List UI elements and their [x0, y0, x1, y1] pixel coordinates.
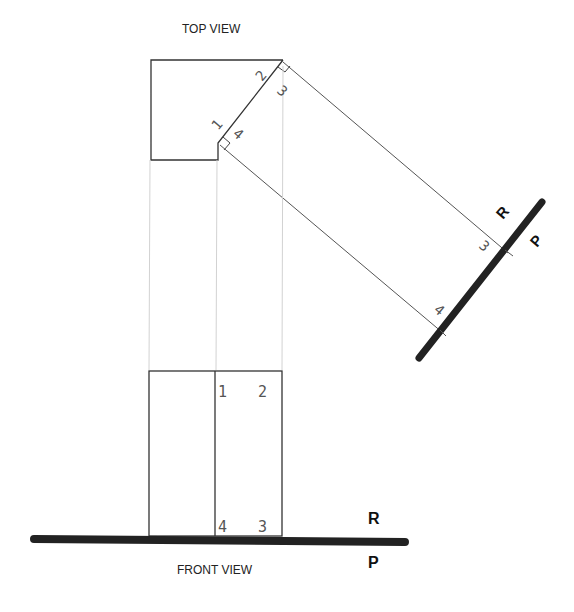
front-view-label: FRONT VIEW — [177, 563, 252, 577]
front-plane-r: R — [368, 510, 380, 528]
front-point-4: 4 — [218, 518, 227, 536]
projector-vertical-right — [282, 66, 283, 370]
projector-vertical-mid — [216, 160, 217, 370]
projector-vertical-left — [149, 160, 150, 370]
front-plane-p: P — [368, 554, 379, 572]
aux-plane-r: R — [492, 203, 512, 222]
top-point-4: 4 — [230, 125, 247, 143]
projector-aux-lower — [220, 145, 443, 333]
drawing-canvas: 2 3 1 4 3 4 1 2 4 3 R P — [0, 0, 574, 612]
front-point-1: 1 — [218, 383, 227, 401]
aux-point-4: 4 — [431, 301, 448, 319]
top-point-3: 3 — [274, 82, 291, 100]
top-point-1: 1 — [208, 116, 226, 133]
top-view-label: TOP VIEW — [182, 22, 240, 36]
aux-plane-p: P — [526, 231, 545, 250]
top-point-2: 2 — [252, 67, 270, 84]
projector-aux-upper — [283, 62, 508, 253]
front-point-2: 2 — [258, 383, 267, 401]
front-point-3: 3 — [258, 518, 267, 536]
front-fold-line — [34, 539, 405, 542]
aux-point-3: 3 — [476, 237, 493, 255]
aux-fold-line — [419, 202, 542, 358]
